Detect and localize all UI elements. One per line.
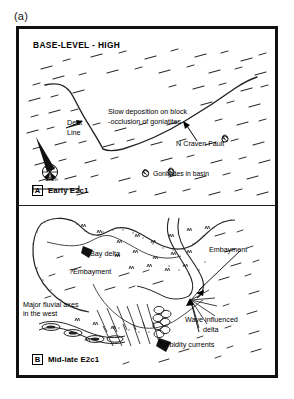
q-embayment-label: ?Embayment — [69, 268, 111, 276]
northern-shoreline — [41, 218, 235, 249]
slope-hachure-fan — [97, 304, 159, 346]
scale-bar-label: 10km — [45, 177, 58, 183]
n-craven-fault-leader-arrow — [183, 121, 197, 141]
figure-root: (a) — [0, 0, 294, 399]
dent-line-label-line2: Line — [67, 129, 81, 137]
panel-b-tag-letter: B — [32, 354, 43, 365]
panel-a-early-e2c1: BASE-LEVEL - HIGH Slow deposition on blo… — [19, 29, 275, 205]
dent-line-label-line1: Dent — [67, 119, 82, 127]
panel-a-tag-letter: A — [32, 185, 43, 196]
goniatite-ammonoid-icon — [141, 169, 150, 178]
turbidity-lobe — [153, 306, 171, 337]
embayment-label: Embayment — [209, 246, 247, 254]
turbidity-currents-label: Turbidity currents — [159, 341, 214, 349]
major-fluvial-axes-line2: in the west — [23, 310, 57, 318]
panel-a-tag: A Early E2c1 — [32, 185, 88, 196]
major-fluvial-axes-line1: Major fluvial axes — [23, 301, 79, 309]
panel-b-mid-late-e2c1: Bay delta ?Embayment Embayment Major flu… — [19, 206, 275, 375]
n-craven-fault-label: N Craven Fault — [176, 140, 224, 148]
legend-goniatites-in-basin: Goniatites in basin — [141, 169, 209, 178]
figure-frame: BASE-LEVEL - HIGH Slow deposition on blo… — [16, 26, 278, 378]
panel-a-tag-label: Early E2c1 — [48, 186, 88, 195]
bay-delta-label: Bay delta — [90, 250, 120, 258]
major-fluvial-axes-ribbons — [39, 322, 125, 344]
shoreline-stipple — [32, 217, 231, 311]
figure-label: (a) — [14, 10, 28, 22]
slow-deposition-note-line1: Slow deposition on block — [108, 108, 187, 116]
panel-b-artwork — [19, 206, 275, 375]
wave-influenced-delta-line1: Wave influenced — [185, 316, 238, 324]
panel-b-tag-label: Mid-late E2c1 — [48, 355, 99, 364]
panel-a-heading: BASE-LEVEL - HIGH — [33, 41, 120, 50]
legend-goniatites-text: Goniatites in basin — [153, 170, 209, 177]
embayment-mouth-trace — [137, 286, 189, 299]
embayment-channel-east-bank — [178, 218, 204, 298]
panel-b-tag: B Mid-late E2c1 — [32, 354, 99, 365]
slow-deposition-note-line2: -occlusion of goniatites — [108, 118, 181, 126]
compass-rose-icon — [36, 137, 58, 181]
wave-influenced-delta-line2: delta — [203, 326, 219, 334]
